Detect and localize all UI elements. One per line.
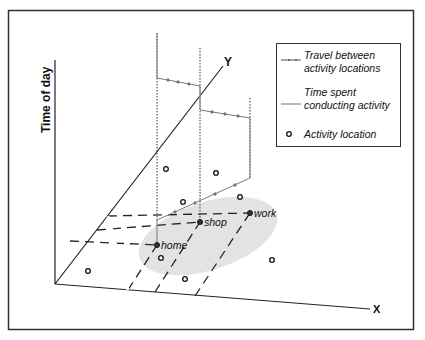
legend-time-line2: conducting activity [304, 99, 391, 111]
work-label: work [254, 207, 277, 219]
shop-label: shop [204, 216, 227, 228]
shop-point [198, 220, 203, 225]
work-point [248, 211, 253, 216]
time-axis-label: Time of day [39, 66, 53, 133]
legend-travel-line2: activity locations [304, 62, 381, 74]
legend-travel-line1: Travel between [304, 49, 375, 61]
space-time-prism-diagram: Time of day Y X [0, 0, 425, 340]
y-axis-label: Y [224, 55, 232, 69]
x-axis-label: X [373, 303, 381, 315]
legend-time-line1: Time spent [304, 86, 357, 98]
activity-location-icon [287, 132, 292, 137]
legend: Travel between activity locations Time s… [277, 44, 401, 147]
home-label: home [161, 239, 187, 251]
home-point [155, 243, 160, 248]
legend-location-label: Activity location [303, 128, 377, 140]
